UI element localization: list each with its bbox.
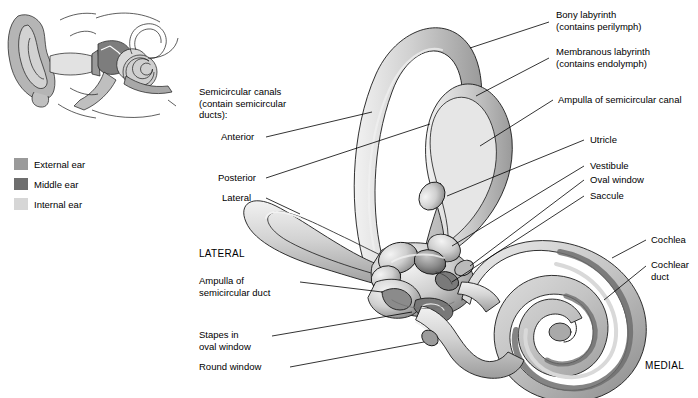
leader-posterior [266, 124, 430, 178]
label-bony-labyrinth: Bony labyrinth (contains perilymph) [556, 9, 642, 32]
leader-round-window [290, 342, 424, 367]
label-anterior: Anterior [221, 131, 254, 143]
leader-cochlea [612, 240, 646, 258]
leader-cochlear-duct [604, 266, 646, 300]
figure-inner-ear-diagram: External ear Middle ear Internal ear [0, 0, 698, 398]
label-lateral-orientation: LATERAL [199, 248, 245, 260]
label-semicircular-canals: Semicircular canals (contain semicircula… [199, 86, 286, 121]
label-ampulla-semicircular-duct: Ampulla of semicircular duct [199, 275, 270, 298]
label-cochlea: Cochlea [651, 234, 686, 246]
leader-stapes [272, 312, 412, 336]
label-round-window: Round window [199, 361, 261, 373]
label-vestibule: Vestibule [590, 160, 629, 172]
leader-bony-labyrinth [470, 22, 549, 48]
label-stapes-oval-window: Stapes in oval window [199, 329, 251, 352]
label-medial-orientation: MEDIAL [645, 360, 684, 372]
label-membranous-labyrinth: Membranous labyrinth (contains endolymph… [556, 46, 650, 69]
leader-oval-window [470, 180, 584, 266]
label-oval-window: Oval window [590, 174, 644, 186]
leader-lateral-canal [266, 198, 300, 214]
leader-vestibule [452, 166, 584, 246]
leader-membranous-labyrinth [476, 58, 549, 96]
label-lateral-canal: Lateral [222, 192, 251, 204]
label-ampulla-semicircular-canal: Ampulla of semicircular canal [558, 94, 682, 106]
leader-saccule [452, 196, 584, 282]
label-saccule: Saccule [590, 190, 624, 202]
label-utricle: Utricle [590, 134, 617, 146]
label-cochlear-duct: Cochlear duct [651, 259, 689, 282]
leader-utricle [447, 140, 584, 196]
label-posterior: Posterior [218, 172, 256, 184]
leader-ampulla-semicircular-canal [480, 100, 553, 146]
leader-ampulla-semicircular-duct [300, 282, 382, 292]
